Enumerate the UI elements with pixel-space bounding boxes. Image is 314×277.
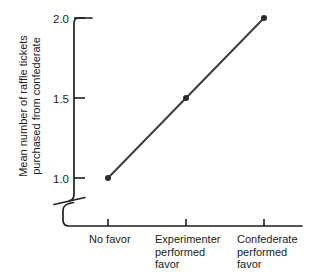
- y-tick-label: 1.0: [39, 173, 69, 185]
- y-tick-label: 1.5: [39, 93, 69, 105]
- data-series-line: [105, 15, 267, 181]
- y-axis-ticks: [74, 18, 85, 178]
- x-category-label: Experimenter performed favor: [155, 233, 229, 271]
- y-tick-label: 2.0: [39, 13, 69, 25]
- data-point-marker: [183, 95, 189, 101]
- x-axis-line: [63, 203, 302, 227]
- x-axis-ticks: [108, 219, 264, 226]
- x-category-label: Confederate performed favor: [237, 233, 311, 271]
- x-category-label: No favor: [89, 233, 131, 246]
- data-point-marker: [105, 175, 111, 181]
- data-point-marker: [261, 15, 267, 21]
- y-axis-line: [70, 18, 93, 201]
- y-axis-title: Mean number of raffle tickets purchased …: [17, 35, 43, 177]
- line-chart-figure: Mean number of raffle tickets purchased …: [0, 0, 314, 277]
